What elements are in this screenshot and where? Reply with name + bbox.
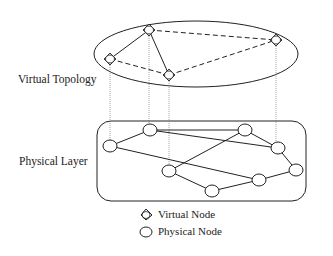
virtual-link (149, 30, 276, 40)
virtual-link (110, 59, 169, 75)
virtual-node (104, 53, 116, 65)
legend-physical-node-label: Physical Node (158, 225, 222, 237)
virtual-link (149, 30, 169, 75)
physical-layer-box (97, 121, 306, 201)
mapping-lines (110, 36, 276, 166)
virtual-topology-ellipse (94, 21, 298, 87)
virtual-topology-label: Virtual Topology (18, 73, 96, 85)
virtual-link (110, 30, 149, 59)
physical-link (110, 146, 259, 180)
physical-node (103, 140, 117, 152)
physical-node (238, 124, 252, 136)
physical-node (162, 165, 176, 177)
physical-links (110, 130, 296, 191)
legend-physical-node-icon (140, 227, 152, 237)
virtual-links (110, 30, 276, 75)
physical-node (271, 142, 285, 154)
virtual-link (169, 40, 276, 75)
physical-node (252, 174, 266, 186)
legend-virtual-node-icon (141, 209, 152, 220)
physical-layer-label: Physical Layer (19, 155, 88, 167)
virtual-node (163, 69, 175, 81)
physical-node (205, 185, 219, 197)
legend-virtual-node-label: Virtual Node (158, 208, 215, 220)
physical-nodes (103, 124, 303, 197)
physical-link (169, 130, 245, 171)
virtual-nodes (104, 24, 282, 81)
physical-node (143, 124, 157, 136)
physical-node (289, 164, 303, 176)
